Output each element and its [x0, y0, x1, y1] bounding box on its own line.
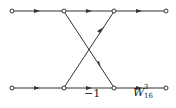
twiddle-factor-label: W 3 16 — [133, 86, 144, 99]
twiddle-base: W — [133, 86, 144, 99]
node — [10, 9, 14, 13]
arrow-icon — [34, 86, 40, 90]
node — [62, 9, 66, 13]
twiddle-subscript: 16 — [144, 92, 153, 100]
node — [112, 86, 116, 90]
node — [112, 9, 116, 13]
arrow-icon — [97, 61, 101, 68]
minus-one-label: −1 — [84, 87, 100, 100]
arrow-icon — [86, 9, 92, 13]
arrow-icon — [136, 9, 142, 13]
node — [10, 86, 14, 90]
twiddle-exponent: 3 — [144, 83, 148, 91]
node — [164, 9, 168, 13]
node — [62, 86, 66, 90]
node — [164, 86, 168, 90]
arrow-icon — [97, 27, 104, 33]
arrow-icon — [34, 9, 40, 13]
